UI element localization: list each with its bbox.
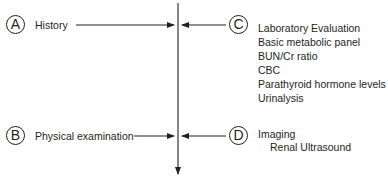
node-d-title: Imaging bbox=[258, 128, 295, 140]
node-a-badge: A bbox=[6, 15, 25, 34]
node-d-badge: D bbox=[229, 126, 248, 145]
node-a-title: History bbox=[35, 19, 68, 31]
node-c-item: BUN/Cr ratio bbox=[258, 49, 386, 63]
node-c-item: Parathyroid hormone levels bbox=[258, 77, 386, 91]
node-b-title: Physical examination bbox=[35, 130, 134, 142]
node-c-title: Laboratory Evaluation bbox=[258, 21, 386, 35]
node-c-item: Urinalysis bbox=[258, 91, 386, 105]
node-c-badge: C bbox=[229, 15, 248, 34]
node-c-item: Basic metabolic panel bbox=[258, 35, 386, 49]
node-c-list: Laboratory Evaluation Basic metabolic pa… bbox=[258, 21, 386, 105]
node-b-badge: B bbox=[6, 126, 25, 145]
node-d-item: Renal Ultrasound bbox=[270, 141, 351, 153]
node-c-item: CBC bbox=[258, 63, 386, 77]
